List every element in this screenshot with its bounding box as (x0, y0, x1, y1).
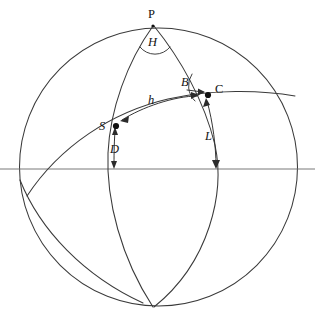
label-point-C: C (215, 82, 223, 96)
label-arc-L: L (204, 129, 212, 143)
azimuth-arrow-head (198, 89, 205, 96)
latitude-arrow-head-down (212, 160, 220, 169)
label-point-P: P (148, 7, 155, 21)
almucantar-circle (27, 91, 295, 196)
meridian-through-body (154, 26, 218, 307)
label-arc-h: h (148, 93, 154, 107)
point-dot-P (151, 24, 154, 27)
label-arc-D: D (109, 142, 119, 156)
label-point-S: S (99, 119, 106, 133)
point-dot-S (113, 123, 119, 129)
declination-arrow-head-down (111, 161, 117, 169)
celestial-sphere-diagram: P S C H B h D L (0, 0, 315, 322)
latitude-arrow-head-up (203, 98, 210, 107)
point-dot-C (205, 92, 211, 98)
sphere-outline-circle (20, 28, 298, 306)
vertical-circle-lower-left (20, 180, 143, 303)
label-angle-H: H (147, 35, 158, 49)
altitude-arc-arrow (122, 96, 197, 120)
altitude-arrow-head-at-s (120, 116, 129, 123)
sphere-svg-canvas: P S C H B h D L (0, 0, 315, 322)
altitude-arrow-head-at-c (191, 92, 199, 99)
label-angle-B: B (181, 75, 189, 89)
